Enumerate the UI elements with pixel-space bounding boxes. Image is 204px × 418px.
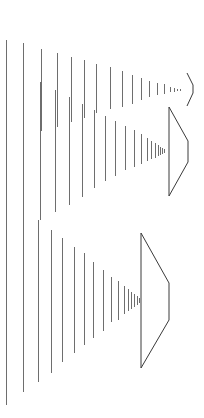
trapezoid-shape <box>169 107 188 196</box>
converging-line-groups <box>39 49 194 382</box>
group-c-bottom <box>39 220 170 382</box>
perspective-illusion-figure <box>0 0 204 418</box>
trapezoid-shape <box>141 233 169 368</box>
full-length-rails <box>7 40 24 405</box>
trapezoid-shape <box>187 73 193 106</box>
group-a-top <box>42 49 194 131</box>
group-b-middle <box>41 82 189 220</box>
